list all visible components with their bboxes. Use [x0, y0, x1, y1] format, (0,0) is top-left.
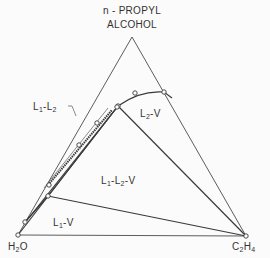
water-label: H2O — [8, 241, 28, 253]
apex-label-line1: n - PROPYL — [103, 5, 161, 16]
phase-boundaries — [18, 92, 246, 236]
data-points — [16, 90, 248, 238]
region-label-l2-v: L2-V — [140, 108, 161, 120]
region-label-l1-l2-v: L1-L2-V — [101, 175, 135, 187]
region-label-l1-v: L1-V — [53, 217, 74, 229]
thin-lines — [44, 106, 108, 188]
region-label-l1-l2: L1-L2 — [33, 101, 57, 113]
ternary-diagram-svg: n - PROPYL ALCOHOL H2O C2H4 L1-L2 L2-V L… — [0, 0, 270, 258]
triangle-frame — [18, 37, 246, 236]
ethylene-label: C2H4 — [232, 241, 255, 253]
ternary-diagram: n - PROPYL ALCOHOL H2O C2H4 L1-L2 L2-V L… — [0, 0, 270, 258]
apex-label-line2: ALCOHOL — [107, 19, 157, 30]
